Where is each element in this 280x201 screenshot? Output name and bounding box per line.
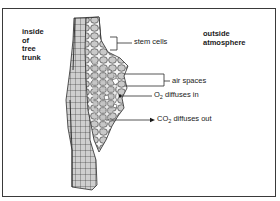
stem-cells-label: stem cells [134,38,167,47]
co2-symbol: CO [157,114,168,123]
stem-cells-leader [110,37,132,50]
outside-label-line-2: atmosphere [203,39,246,48]
co2-diffuses-out-label: CO2 diffuses out [157,115,212,124]
inside-trunk-label: inside of tree trunk [22,28,44,62]
cortex-cells-bulge [85,17,128,152]
co2-text: diffuses out [171,114,211,123]
o2-diffuses-in-label: O2 diffuses in [154,91,199,100]
outside-atmosphere-label: outside atmosphere [203,30,246,47]
o2-text: diffuses in [163,90,199,99]
inside-label-line-4: trunk [22,54,44,63]
air-spaces-label: air spaces [172,77,206,86]
air-spaces-leader [125,74,170,86]
